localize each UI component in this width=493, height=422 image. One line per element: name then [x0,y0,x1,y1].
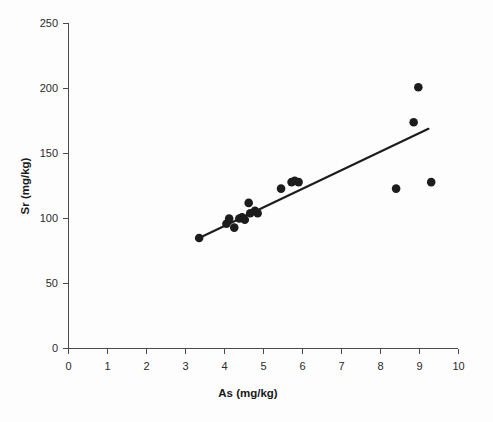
data-point [277,184,286,193]
x-axis-title: As (mg/kg) [218,387,278,399]
plot-canvas: 0 50 100 150 200 250 Sr (mg/kg) [0,0,493,422]
data-point [244,199,253,208]
y-tick-label-100: 100 [40,212,58,224]
x-axis-group: 0 1 2 3 4 5 6 7 8 9 10 As (mg/kg) [65,349,464,400]
x-tick-label-0: 0 [65,360,71,372]
x-tick-label-8: 8 [377,360,383,372]
data-point [253,209,262,218]
y-tick-label-0: 0 [52,342,58,354]
y-tick-label-200: 200 [40,82,58,94]
y-tick-label-50: 50 [46,277,58,289]
x-axis-ticks [69,349,459,355]
x-tick-label-3: 3 [182,360,188,372]
data-point [230,223,239,232]
y-axis-group: 0 50 100 150 200 250 Sr (mg/kg) [19,17,69,354]
x-tick-label-4: 4 [221,360,227,372]
y-axis-ticks [63,24,69,349]
data-point [414,83,423,92]
x-tick-label-10: 10 [452,360,464,372]
scatter-plot-figure: 0 50 100 150 200 250 Sr (mg/kg) [0,0,493,422]
y-axis-title: Sr (mg/kg) [19,157,31,214]
y-tick-label-250: 250 [40,17,58,29]
x-tick-label-9: 9 [416,360,422,372]
data-points-layer [195,83,436,242]
data-point [427,178,436,187]
y-axis-tick-labels: 0 50 100 150 200 250 [40,17,58,354]
y-tick-label-150: 150 [40,147,58,159]
data-point [225,214,234,223]
x-tick-label-1: 1 [104,360,110,372]
x-tick-label-2: 2 [143,360,149,372]
x-tick-label-6: 6 [299,360,305,372]
x-tick-label-5: 5 [260,360,266,372]
regression-line [199,129,428,238]
data-point [409,118,418,127]
data-point [294,178,303,187]
x-tick-label-7: 7 [338,360,344,372]
data-point [392,184,401,193]
x-axis-tick-labels: 0 1 2 3 4 5 6 7 8 9 10 [65,360,464,372]
data-point [195,234,204,243]
